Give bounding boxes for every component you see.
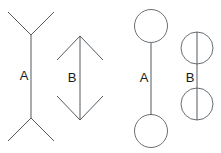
illusion-figure-canvas: ABAB [0, 0, 221, 153]
fin-line [80, 36, 103, 60]
fin-line [80, 96, 103, 120]
illusion-figure-svg: ABAB [0, 0, 221, 153]
figure-label: A [140, 70, 149, 85]
figure-left-fins: A [8, 12, 54, 141]
fin-line [31, 12, 54, 35]
figure-right-tangent-circles: A [135, 10, 168, 148]
fin-line [57, 96, 80, 120]
figure-left-arrows: B [57, 36, 103, 120]
terminator-circle [135, 115, 168, 148]
figure-right-overlap-circles: B [181, 32, 213, 120]
fin-line [57, 36, 80, 60]
figure-label: B [186, 70, 195, 85]
figure-label: B [68, 70, 77, 85]
fin-line [31, 118, 54, 141]
fin-line [8, 118, 31, 141]
fin-line [8, 12, 31, 35]
figure-label: A [20, 68, 29, 83]
terminator-circle [135, 10, 168, 43]
